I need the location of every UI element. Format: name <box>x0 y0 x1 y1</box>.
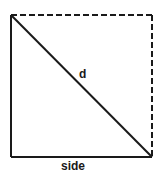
square-diagonal-diagram: d side <box>0 0 161 179</box>
side-label: side <box>61 159 85 173</box>
diagonal-label: d <box>79 67 86 81</box>
diagonal-line <box>11 15 152 157</box>
